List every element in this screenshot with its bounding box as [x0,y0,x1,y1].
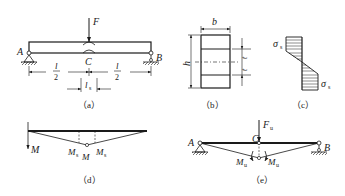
moment-axis-label: M [30,144,40,155]
figure-canvas: F A B C l 2 l [0,0,345,196]
caption-b: （b） [201,100,224,110]
panel-c: σ s σ s （c） [273,37,331,110]
half-span-left-denominator: 2 [54,73,58,82]
ms-right-subscript: s [104,152,107,158]
stress-bottom-subscript: s [328,84,331,90]
caption-c: （c） [292,100,314,110]
support-a-label: A [16,46,24,57]
force-u-label: F [262,119,270,130]
mu-right-label: M [267,157,276,167]
support-b-label: B [156,52,162,63]
caption-d: （d） [78,175,101,185]
stress-top-subscript: s [280,44,283,50]
half-span-right-numerator: l [116,61,119,71]
half-span-left-numerator: l [55,61,58,71]
plastic-hinge-point [85,143,88,146]
cross-section [201,35,230,88]
stress-hatching-top [286,40,302,59]
caption-e: （e） [251,175,273,185]
support-a-e-label: A [187,137,195,148]
plastic-hinge-e [257,156,260,159]
midpoint-c-e-label: C [252,133,259,144]
stress-bottom-label: σ [321,78,327,89]
collapse-mechanism [200,143,319,158]
panel-b: b h t t （b） [181,16,251,110]
force-u-subscript: u [270,125,273,131]
half-span-right-denominator: 2 [115,73,119,82]
mu-right-subscript: u [276,162,279,168]
mu-left-label: M [235,157,244,167]
force-label: F [92,16,100,27]
t-label-top: t [240,56,249,59]
panel-a: F A B C l 2 l [16,16,162,110]
m-center-label: M [81,152,90,162]
moment-diagram [28,131,147,145]
panel-e: F u A B C M u M u （e） [187,119,330,185]
stress-top-label: σ [273,38,279,49]
mu-left-subscript: u [244,162,247,168]
hinge-length-label: l [85,80,88,90]
t-label-bottom: t [240,68,249,71]
support-b-e-label: B [324,142,330,153]
beam [29,42,151,53]
ms-right-label: M [95,147,104,157]
panel-d: M M s M M s （d） [28,122,147,185]
height-h-label: h [181,61,192,66]
ms-left-label: M [67,147,76,157]
hinge-length-subscript: s [89,85,92,91]
midpoint-c-label: C [85,56,92,67]
width-b-label: b [212,16,217,27]
ms-left-subscript: s [76,152,79,158]
caption-a: （a） [78,100,100,110]
